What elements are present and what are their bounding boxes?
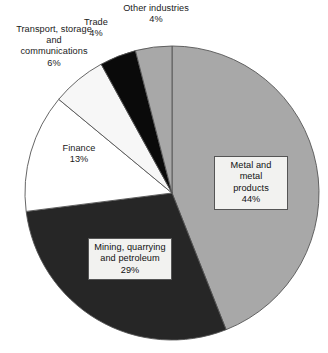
pie-chart-container: Other industries 4% Trade 4% Transport, … bbox=[0, 0, 328, 353]
slice-label-metal-and-metal-products: Metal and metal products 44% bbox=[214, 156, 288, 210]
slice-label-transport-storage-communications: Transport, storage and communications 6% bbox=[2, 24, 106, 69]
slice-label-other-industries: Other industries 4% bbox=[104, 3, 208, 25]
slice-label-finance: Finance 13% bbox=[40, 143, 118, 165]
slice-label-mining-quarrying-petroleum: Mining, quarrying and petroleum 29% bbox=[88, 238, 172, 280]
